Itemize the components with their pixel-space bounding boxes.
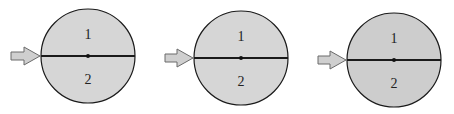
incoming-arrow-icon bbox=[11, 47, 40, 65]
region-label-bottom: 2 bbox=[391, 76, 398, 91]
panel-2: 1 2 bbox=[165, 11, 288, 105]
region-label-bottom: 2 bbox=[238, 74, 245, 89]
region-label-top: 1 bbox=[85, 27, 92, 42]
center-dot bbox=[392, 58, 396, 62]
center-dot bbox=[86, 54, 90, 58]
region-label-top: 1 bbox=[238, 29, 245, 44]
panel-3: 1 2 bbox=[318, 13, 441, 107]
figure: 1 2 1 2 1 2 bbox=[0, 0, 454, 114]
region-label-top: 1 bbox=[391, 31, 398, 46]
incoming-arrow-icon bbox=[318, 51, 346, 69]
region-label-bottom: 2 bbox=[85, 72, 92, 87]
panel-1: 1 2 bbox=[11, 9, 135, 103]
center-dot bbox=[239, 56, 243, 60]
incoming-arrow-icon bbox=[165, 49, 193, 67]
